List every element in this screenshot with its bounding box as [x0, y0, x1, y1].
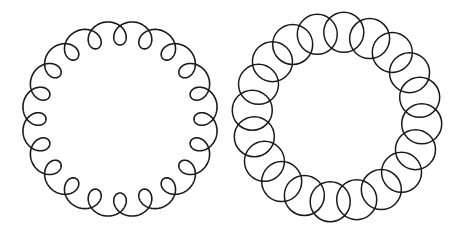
ring-circle — [232, 90, 272, 130]
looped-curve — [23, 22, 217, 216]
ring-circle — [350, 19, 390, 59]
ring-circle — [310, 182, 350, 222]
looped-circle-figure — [23, 22, 217, 216]
figure-canvas — [0, 0, 464, 233]
ring-circle — [239, 64, 279, 104]
ring-circle — [297, 14, 337, 54]
ring-circle — [395, 130, 435, 170]
overlapping-circles-figure — [232, 12, 441, 221]
ring-circle — [402, 104, 442, 144]
ring-circle — [284, 175, 324, 215]
